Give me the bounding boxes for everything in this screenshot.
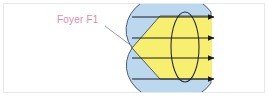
optics-diagram-canvas xyxy=(0,0,269,97)
figure-root: Foyer F1 xyxy=(0,0,269,97)
foyer-label: Foyer F1 xyxy=(57,14,99,26)
